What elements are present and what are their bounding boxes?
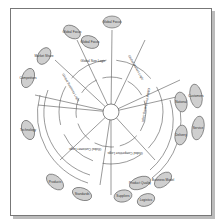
svg-text:Logistics: Logistics xyxy=(140,198,153,202)
svg-text:Global Purchasing Logic: Global Purchasing Logic xyxy=(141,88,151,123)
svg-text:Global Competitive Logic: Global Competitive Logic xyxy=(107,151,143,155)
svg-text:Products: Products xyxy=(49,180,62,184)
svg-text:Global Focus: Global Focus xyxy=(63,30,82,34)
svg-text:Technology: Technology xyxy=(20,128,37,132)
svg-text:Standards: Standards xyxy=(75,192,90,196)
svg-text:Business Model: Business Model xyxy=(152,178,175,182)
svg-text:Global Customer Logic: Global Customer Logic xyxy=(68,147,101,151)
center-node xyxy=(103,104,119,120)
svg-text:Global Focus: Global Focus xyxy=(103,20,122,24)
svg-text:Suppliers: Suppliers xyxy=(116,194,130,198)
svg-text:Delivery: Delivery xyxy=(175,133,187,137)
svg-text:Market Share: Market Share xyxy=(34,54,53,58)
radial-diagram: Global Size Logic Global Business Logic … xyxy=(0,0,222,224)
svg-text:Competitors: Competitors xyxy=(19,76,37,80)
svg-text:Global Focus: Global Focus xyxy=(81,40,100,44)
svg-text:National: National xyxy=(175,100,187,104)
svg-text:Service: Service xyxy=(193,126,204,130)
svg-text:Customers: Customers xyxy=(188,94,204,98)
svg-text:Global Business Logic: Global Business Logic xyxy=(61,73,80,103)
svg-text:Global Size Logic: Global Size Logic xyxy=(81,59,106,63)
svg-text:Product Quality: Product Quality xyxy=(129,181,151,185)
svg-text:Global Market Logic: Global Market Logic xyxy=(127,54,145,81)
